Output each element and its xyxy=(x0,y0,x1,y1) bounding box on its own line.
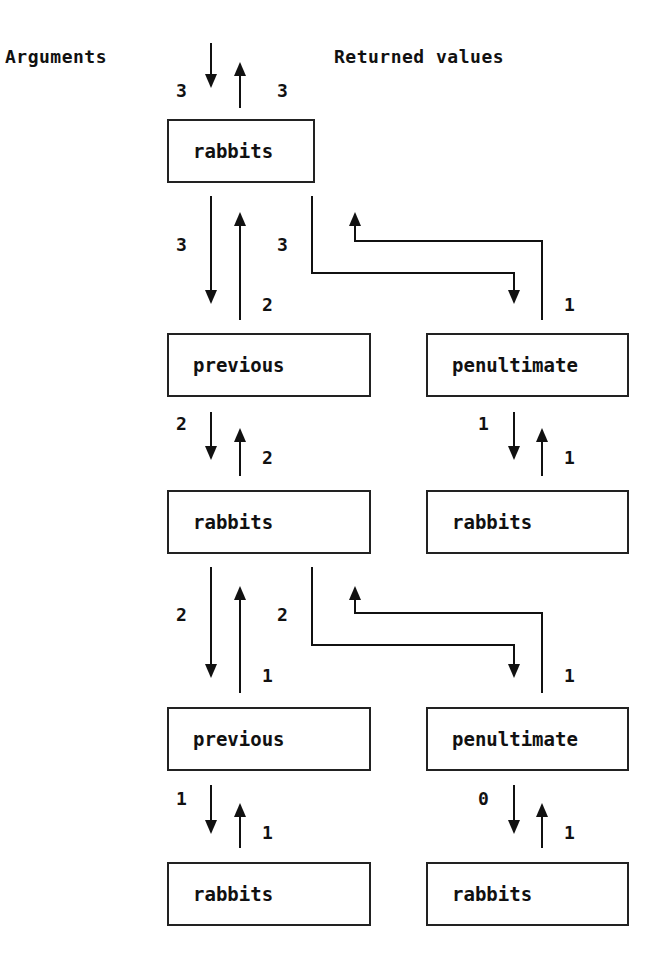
arg-label: 3 xyxy=(277,236,288,254)
box-previous-2: previous xyxy=(167,707,371,771)
box-rabbits-top: rabbits xyxy=(167,119,315,183)
box-rabbits-mid-right: rabbits xyxy=(426,490,629,554)
ret-label: 1 xyxy=(262,824,273,842)
arg-label: 0 xyxy=(478,790,489,808)
arg-label: 3 xyxy=(176,82,187,100)
arg-label: 3 xyxy=(176,236,187,254)
box-penultimate-1: penultimate xyxy=(426,333,629,397)
ret-label: 1 xyxy=(564,296,575,314)
ret-label: 3 xyxy=(277,82,288,100)
box-penultimate-2: penultimate xyxy=(426,707,629,771)
arg-label: 2 xyxy=(277,606,288,624)
arg-label: 1 xyxy=(478,415,489,433)
ret-label: 1 xyxy=(564,824,575,842)
ret-label: 1 xyxy=(564,449,575,467)
ret-label: 1 xyxy=(564,667,575,685)
box-rabbits-bottom-right: rabbits xyxy=(426,862,629,926)
arg-label: 1 xyxy=(176,790,187,808)
call-arrows xyxy=(0,0,660,961)
ret-label: 2 xyxy=(262,449,273,467)
ret-label: 2 xyxy=(262,296,273,314)
ret-label: 1 xyxy=(262,667,273,685)
box-previous-1: previous xyxy=(167,333,371,397)
box-rabbits-bottom-left: rabbits xyxy=(167,862,371,926)
box-rabbits-mid-left: rabbits xyxy=(167,490,371,554)
arg-label: 2 xyxy=(176,415,187,433)
arg-label: 2 xyxy=(176,606,187,624)
